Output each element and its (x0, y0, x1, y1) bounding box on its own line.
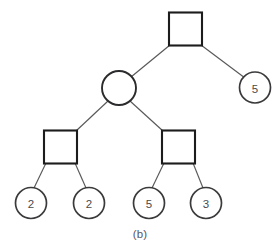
figure-caption: (b) (0, 228, 280, 240)
node-group: 5 2 2 5 3 (16, 13, 271, 219)
figure-container: 5 2 2 5 3 (b) (0, 0, 280, 252)
internal-circle-node[interactable] (102, 71, 136, 105)
edge-circle-to-right-square (130, 101, 163, 131)
edge-root-to-right-leaf (201, 45, 245, 78)
edge-right-square-to-leaf3 (152, 163, 164, 188)
left-square-node[interactable] (44, 131, 77, 164)
leaf-circle-5-bottom-label: 5 (146, 198, 152, 210)
root-square-node[interactable] (169, 13, 202, 46)
edge-left-square-to-leaf1 (34, 163, 46, 188)
edge-root-to-circle (131, 45, 170, 77)
tree-diagram-canvas: 5 2 2 5 3 (0, 0, 280, 252)
edge-circle-to-left-square (76, 101, 108, 131)
leaf-circle-3-label: 3 (203, 198, 209, 210)
edge-group (34, 45, 245, 188)
edge-right-square-to-leaf4 (193, 163, 203, 188)
right-square-node[interactable] (162, 131, 195, 164)
leaf-circle-2-first-label: 2 (28, 198, 34, 210)
leaf-circle-5-right-label: 5 (252, 83, 258, 95)
edge-left-square-to-leaf2 (75, 163, 86, 188)
leaf-circle-2-second-label: 2 (86, 198, 92, 210)
